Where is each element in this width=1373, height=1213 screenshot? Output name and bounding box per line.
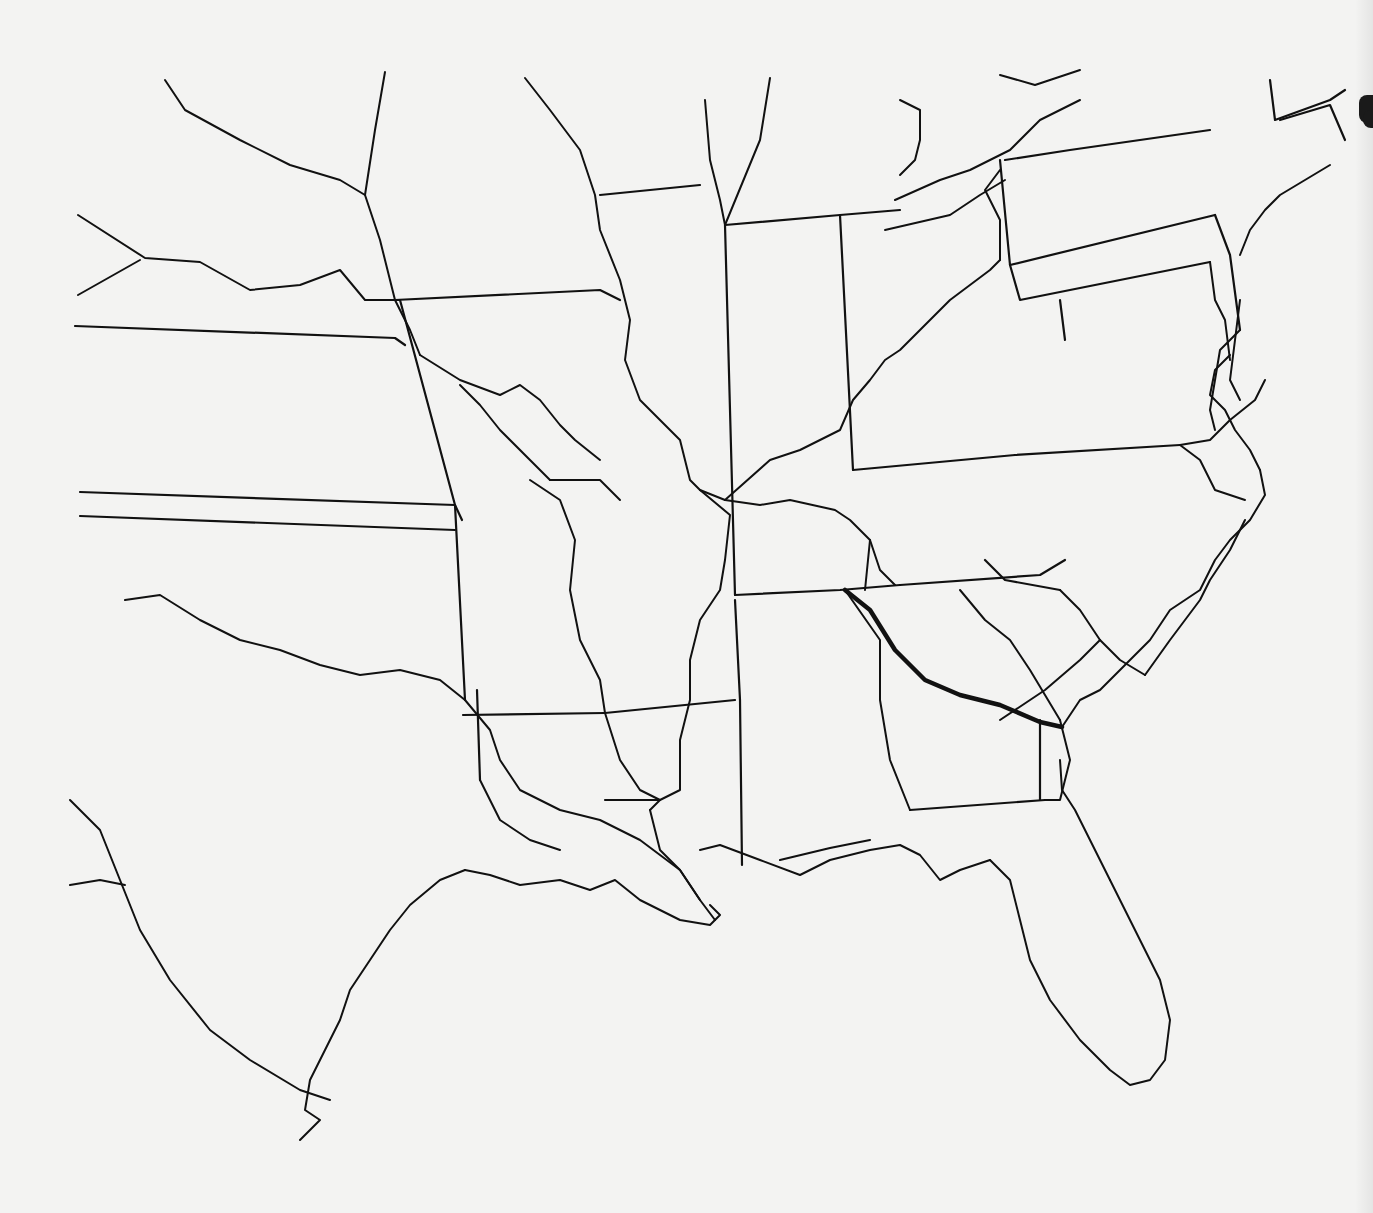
map-background — [0, 0, 1373, 1213]
us-outline-map — [0, 0, 1373, 1213]
page-edge-mark — [1363, 110, 1373, 128]
page-edge-shadow — [1355, 0, 1373, 1213]
map-canvas — [0, 0, 1373, 1213]
